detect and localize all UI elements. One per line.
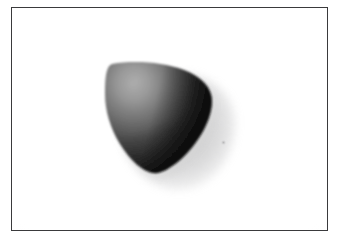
photo-background <box>12 8 327 230</box>
photo-frame <box>11 7 328 231</box>
dust-speck <box>221 140 226 145</box>
dark-rounded-triangle-object <box>12 8 328 231</box>
photo-caption <box>0 0 1 1</box>
figure-page <box>0 0 340 243</box>
